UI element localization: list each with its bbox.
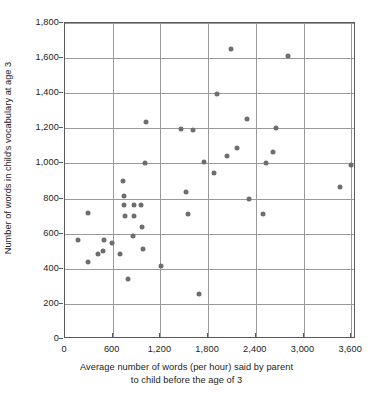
- x-axis-title: Average number of words (per hour) said …: [0, 361, 373, 386]
- y-tick-mark: [59, 22, 63, 23]
- data-point: [132, 214, 137, 219]
- plot-area: [64, 22, 355, 338]
- y-tick-label: 1,600: [0, 52, 59, 62]
- gridline-vertical: [304, 23, 305, 337]
- y-tick-mark: [59, 162, 63, 163]
- gridline-vertical: [351, 23, 352, 337]
- gridline-horizontal: [65, 304, 354, 305]
- x-tick-mark: [207, 333, 208, 338]
- y-tick-label: 600: [0, 228, 59, 238]
- data-point: [85, 259, 90, 264]
- y-tick-mark: [59, 338, 63, 339]
- x-axis-title-line-1: Average number of words (per hour) said …: [80, 362, 293, 372]
- y-tick-mark: [59, 198, 63, 199]
- gridline-horizontal: [65, 199, 354, 200]
- data-point: [214, 92, 219, 97]
- data-point: [117, 251, 122, 256]
- gridline-vertical: [208, 23, 209, 337]
- y-tick-label: 1,200: [0, 122, 59, 132]
- gridline-vertical: [113, 23, 114, 337]
- data-point: [131, 202, 136, 207]
- data-point: [234, 145, 239, 150]
- x-tick-mark: [255, 333, 256, 338]
- data-point: [122, 214, 127, 219]
- gridline-horizontal: [65, 163, 354, 164]
- data-point: [101, 249, 106, 254]
- data-point: [131, 234, 136, 239]
- data-point: [349, 163, 354, 168]
- scatter-plot-figure: Number of words in child's vocabulary at…: [0, 0, 373, 403]
- data-point: [121, 179, 126, 184]
- y-tick-mark: [59, 57, 63, 58]
- data-point: [273, 125, 278, 130]
- data-point: [225, 154, 230, 159]
- data-point: [86, 210, 91, 215]
- x-axis-tick-labels: 06001,2001,8002,4003,0003,600: [64, 338, 355, 358]
- data-point: [246, 197, 251, 202]
- y-tick-mark: [59, 303, 63, 304]
- x-tick-mark: [159, 333, 160, 338]
- y-tick-label: 1,000: [0, 157, 59, 167]
- y-tick-mark: [59, 127, 63, 128]
- data-point: [178, 127, 183, 132]
- data-point: [143, 120, 148, 125]
- data-point: [211, 171, 216, 176]
- data-point: [139, 224, 144, 229]
- y-tick-label: 1,400: [0, 87, 59, 97]
- data-point: [185, 212, 190, 217]
- data-point: [159, 264, 164, 269]
- y-tick-mark: [59, 92, 63, 93]
- gridline-horizontal: [65, 93, 354, 94]
- y-tick-mark: [59, 233, 63, 234]
- y-tick-mark: [59, 268, 63, 269]
- y-tick-label: 1,800: [0, 17, 59, 27]
- data-point: [196, 291, 201, 296]
- data-point: [75, 237, 80, 242]
- gridline-horizontal: [65, 269, 354, 270]
- x-tick-label: 3,600: [320, 344, 373, 354]
- data-point: [121, 193, 126, 198]
- data-point: [140, 247, 145, 252]
- x-tick-mark: [64, 333, 65, 338]
- x-tick-mark: [303, 333, 304, 338]
- x-axis-title-line-2: to child before the age of 3: [0, 374, 373, 387]
- gridline-vertical: [256, 23, 257, 337]
- data-point: [338, 185, 343, 190]
- y-tick-label: 200: [0, 298, 59, 308]
- y-axis-tick-labels: 02004006008001,0001,2001,4001,6001,800: [0, 22, 59, 338]
- data-point: [139, 202, 144, 207]
- gridline-horizontal: [65, 128, 354, 129]
- data-point: [109, 241, 114, 246]
- gridline-vertical: [160, 23, 161, 337]
- x-tick-mark: [350, 333, 351, 338]
- data-point: [285, 54, 290, 59]
- data-point: [183, 189, 188, 194]
- data-point: [264, 161, 269, 166]
- data-point: [261, 211, 266, 216]
- x-tick-mark: [112, 333, 113, 338]
- y-tick-label: 0: [0, 333, 59, 343]
- data-point: [122, 202, 127, 207]
- y-tick-label: 800: [0, 193, 59, 203]
- data-point: [228, 46, 233, 51]
- data-point: [190, 128, 195, 133]
- data-point: [102, 237, 107, 242]
- data-point: [125, 277, 130, 282]
- gridline-horizontal: [65, 23, 354, 24]
- data-point: [245, 116, 250, 121]
- data-point: [202, 159, 207, 164]
- data-point: [271, 150, 276, 155]
- y-tick-label: 400: [0, 263, 59, 273]
- data-point: [143, 161, 148, 166]
- gridline-horizontal: [65, 58, 354, 59]
- gridline-horizontal: [65, 234, 354, 235]
